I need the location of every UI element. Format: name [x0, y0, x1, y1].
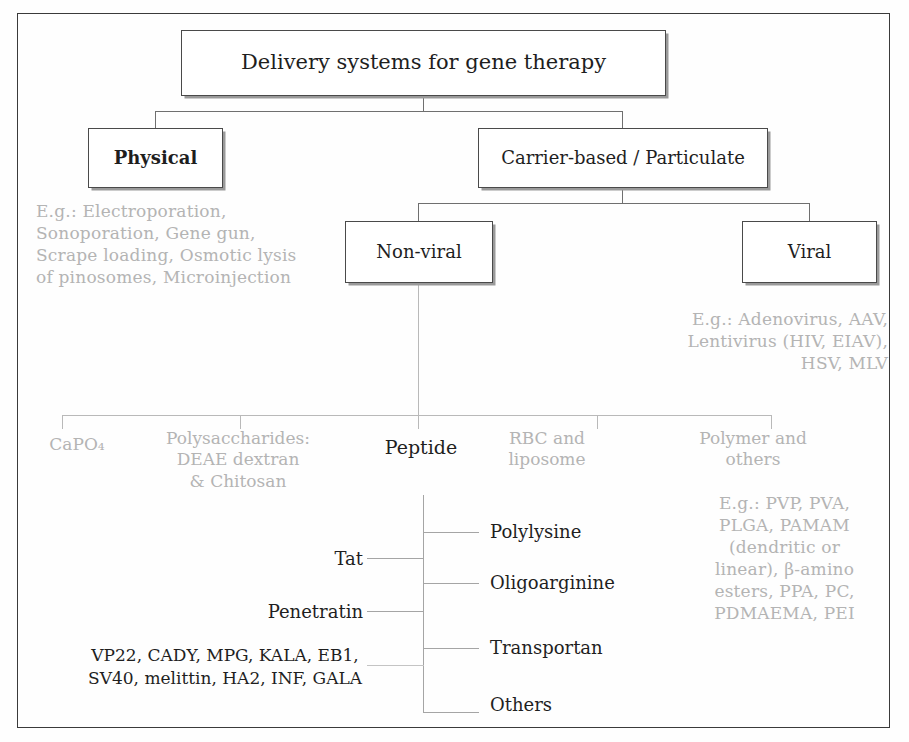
connector-to-polymer	[771, 415, 772, 429]
connector-to-peptide	[418, 415, 419, 429]
connector-stub-oligoarginine	[423, 583, 479, 584]
peptide-leaf-penetratin: Penetratin	[232, 601, 363, 622]
peptide-leaf-tat: Tat	[288, 548, 363, 569]
category-polysaccharides: Polysaccharides: DEAE dextran & Chitosan	[148, 428, 328, 492]
connector-nonviral-down	[418, 283, 419, 416]
connector-root-down	[423, 96, 424, 112]
connector-to-rbc	[597, 415, 598, 429]
connector-categories-bus	[62, 415, 772, 416]
node-non-viral: Non-viral	[345, 221, 493, 283]
diagram-canvas: Delivery systems for gene therapy Physic…	[0, 0, 909, 742]
peptide-others-list: VP22, CADY, MPG, KALA, EB1, SV40, melitt…	[60, 644, 390, 689]
connector-level3-bus	[418, 203, 810, 204]
category-polymer-others: Polymer and others	[638, 428, 868, 471]
node-physical: Physical	[88, 128, 223, 188]
connector-to-capo4	[62, 415, 63, 429]
connector-to-nonviral	[418, 203, 419, 222]
connector-to-polysaccharides	[240, 415, 241, 429]
examples-viral: E.g.: Adenovirus, AAV, Lentivirus (HIV, …	[638, 308, 888, 374]
peptide-leaf-oligoarginine: Oligoarginine	[490, 572, 615, 593]
connector-level2-bus	[155, 111, 623, 112]
connector-to-carrier	[622, 111, 623, 129]
node-root: Delivery systems for gene therapy	[181, 30, 666, 96]
node-viral-label: Viral	[788, 242, 832, 262]
connector-stub-polylysine	[423, 532, 479, 533]
connector-stub-penetratin	[367, 611, 424, 612]
examples-physical: E.g.: Electroporation, Sonoporation, Gen…	[36, 200, 356, 288]
connector-stub-tat	[367, 558, 424, 559]
node-carrier-based: Carrier-based / Particulate	[478, 128, 768, 188]
connector-stub-others	[423, 712, 479, 713]
node-root-label: Delivery systems for gene therapy	[241, 51, 606, 74]
category-capo4: CaPO₄	[22, 434, 132, 455]
node-viral: Viral	[742, 221, 877, 283]
examples-polymer: E.g.: PVP, PVA, PLGA, PAMAM (dendritic o…	[682, 492, 887, 625]
node-physical-label: Physical	[114, 148, 198, 168]
node-carrier-based-label: Carrier-based / Particulate	[501, 148, 745, 168]
connector-stub-transportan	[423, 648, 479, 649]
node-non-viral-label: Non-viral	[376, 242, 461, 262]
connector-to-physical	[155, 111, 156, 129]
connector-carrier-down	[622, 188, 623, 204]
peptide-leaf-polylysine: Polylysine	[490, 521, 581, 542]
category-rbc-liposome: RBC and liposome	[432, 428, 662, 471]
connector-to-viral	[809, 203, 810, 222]
peptide-leaf-others: Others	[490, 694, 552, 715]
peptide-leaf-transportan: Transportan	[490, 637, 603, 658]
connector-peptide-spine	[423, 495, 424, 713]
